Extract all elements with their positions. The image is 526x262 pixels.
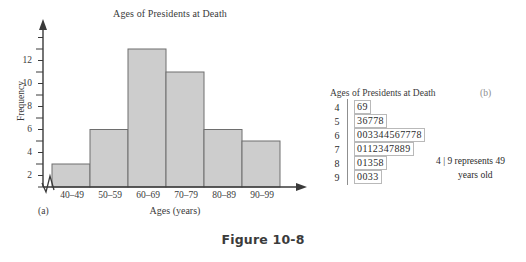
leaf-values: 003344567778: [354, 128, 425, 142]
leaf-values: 0112347889: [354, 142, 414, 156]
stem-row: 7 0112347889: [330, 142, 414, 156]
histogram-plot: [0, 0, 320, 230]
leaf-values: 36778: [354, 114, 387, 128]
y-axis-arrow: [39, 19, 47, 30]
bar-90-99: [242, 141, 280, 187]
bar-50-59: [90, 130, 128, 188]
y-axis-ticks: [36, 38, 43, 188]
stem-value: 7: [330, 144, 344, 155]
stem-row: 8 01358: [330, 156, 387, 170]
stem-value: 5: [330, 116, 344, 127]
stem-value: 8: [330, 158, 344, 169]
stem-row: 6 003344567778: [330, 128, 425, 142]
stemplot-key-line1: 4 | 9 represents 49: [436, 156, 505, 166]
stem-row: 5 36778: [330, 114, 387, 128]
leaf-values: 01358: [354, 156, 387, 170]
panel-b-label: (b): [480, 88, 491, 98]
stemplot-title: Ages of Presidents at Death: [330, 88, 436, 98]
x-axis-arrow: [296, 183, 307, 191]
stemplot-key-line2: years old: [458, 170, 493, 180]
leaf-values: 69: [354, 100, 371, 114]
stem-value: 4: [330, 102, 344, 113]
histogram-panel: Ages of Presidents at Death Frequency Ag…: [0, 0, 320, 230]
figure-10-8: Ages of Presidents at Death Frequency Ag…: [0, 0, 526, 262]
stemplot-panel: Ages of Presidents at Death (b) 4 69 5 3…: [330, 88, 526, 198]
figure-caption: Figure 10-8: [0, 232, 526, 247]
bar-70-79: [166, 72, 204, 187]
bar-80-89: [204, 130, 242, 188]
y-axis: [39, 19, 47, 187]
stem-row: 9 0033: [330, 170, 382, 184]
bar-60-69: [128, 49, 166, 187]
stem-value: 6: [330, 130, 344, 141]
histogram-bars: [52, 49, 280, 187]
stem-value: 9: [330, 172, 344, 183]
bar-40-49: [52, 164, 90, 187]
stem-row: 4 69: [330, 100, 371, 114]
leaf-values: 0033: [354, 170, 382, 184]
